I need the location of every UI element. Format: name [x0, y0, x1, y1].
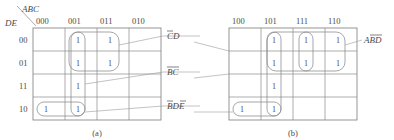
col-header-b-3: 110	[328, 16, 340, 26]
cell-r1c1: 1	[76, 59, 80, 68]
cell-b-r1c3: 1	[336, 59, 340, 68]
col-variable-label: ABC	[21, 4, 40, 14]
row-variable-label: DE	[4, 18, 17, 28]
col-header-1: 001	[68, 16, 81, 26]
cell-r2c1: 1	[76, 82, 80, 91]
term-label-bc: BC	[167, 67, 179, 77]
col-header-b-2: 111	[296, 16, 308, 26]
row-header-2: 11	[19, 81, 27, 91]
cell-b-r0c3: 1	[336, 36, 340, 45]
kmap-a-svg: ABC DE 000 001 011 010 00 01 11 10	[0, 0, 200, 140]
caption-a: (a)	[92, 128, 102, 138]
cell-r0c1: 1	[76, 36, 80, 45]
cell-b-r0c1: 1	[272, 36, 276, 45]
cell-b-r1c2: 1	[304, 59, 308, 68]
kmap-a-grid	[33, 28, 161, 120]
cell-b-r2c1: 1	[272, 82, 276, 91]
col-header-2: 011	[100, 16, 112, 26]
term-label-cd-group: CD	[167, 31, 180, 41]
caption-b: (b)	[288, 128, 298, 138]
row-header-0: 00	[19, 35, 28, 45]
cell-b-r3c1: 1	[272, 105, 276, 114]
col-header-b-0: 100	[232, 16, 245, 26]
term-label-cd: CD	[167, 31, 180, 41]
cell-r0c2: 1	[108, 36, 112, 45]
cell-r3c1: 1	[76, 105, 80, 114]
col-header-b-1: 101	[264, 16, 277, 26]
kmap-figure-b: 100 101 111 110 1 1 1 1 1 1	[194, 0, 394, 140]
col-header-3: 010	[132, 16, 145, 26]
kmap-figure-root: ABC DE 000 001 011 010 00 01 11 10	[0, 0, 394, 140]
col-header-0: 000	[36, 16, 49, 26]
cell-r3c0: 1	[44, 105, 48, 114]
term-label-abd-group: ABD	[363, 35, 382, 45]
cell-b-r3c0: 1	[240, 105, 244, 114]
term-label-bc-group: BC	[167, 67, 179, 77]
row-header-3: 10	[19, 104, 28, 114]
cell-r1c2: 1	[108, 59, 112, 68]
kmap-figure-a: ABC DE 000 001 011 010 00 01 11 10	[0, 0, 200, 140]
cell-b-r1c1: 1	[272, 59, 276, 68]
term-label-abd: ABD	[363, 35, 382, 45]
row-header-1: 01	[19, 58, 28, 68]
term-label-bde: BDE	[167, 101, 185, 111]
term-label-bde-group: BDE	[167, 101, 186, 111]
kmap-b-svg: 100 101 111 110 1 1 1 1 1 1	[194, 0, 394, 140]
cell-b-r0c2: 1	[304, 36, 308, 45]
